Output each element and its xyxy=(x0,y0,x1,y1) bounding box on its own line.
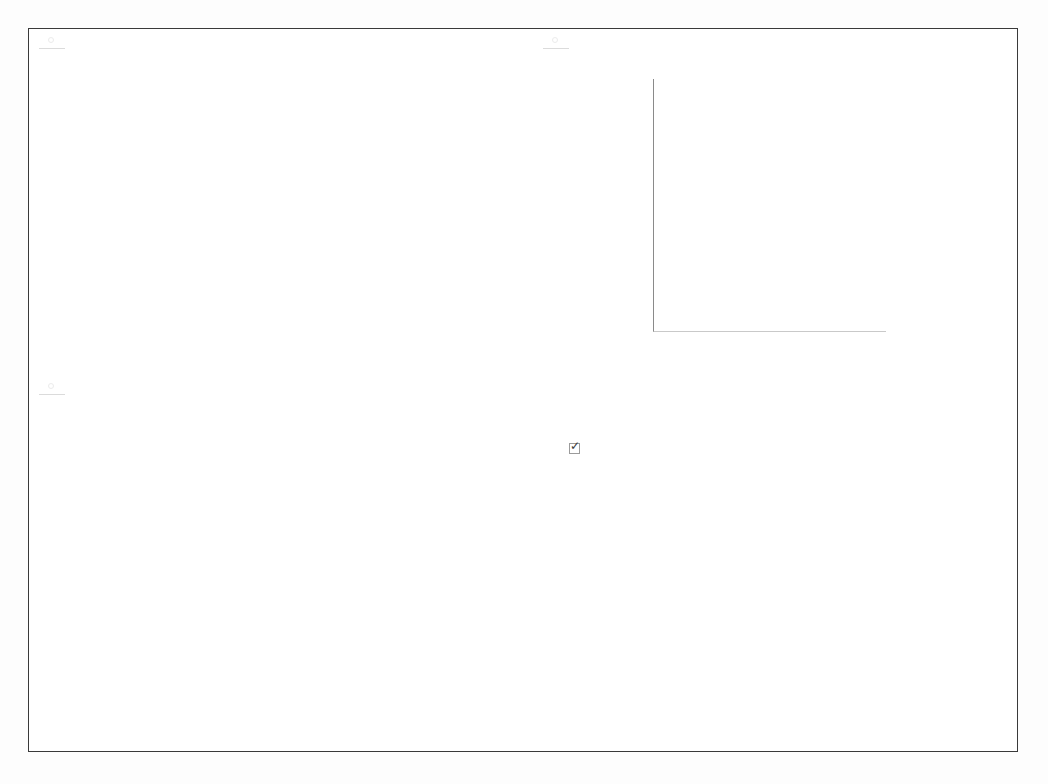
filter-select-all[interactable] xyxy=(569,443,586,455)
chart1-plot-area xyxy=(135,51,348,346)
report-page xyxy=(0,0,1048,784)
checkbox-icon[interactable] xyxy=(569,443,580,454)
report-frame xyxy=(28,28,1018,752)
widget-handle-icon[interactable] xyxy=(543,37,569,55)
chart2-plot-area xyxy=(653,79,886,332)
chart-revenue-profit-margin[interactable] xyxy=(535,31,1017,371)
chart-quantity-by-year[interactable] xyxy=(31,31,531,371)
product-line-filter-panel[interactable] xyxy=(535,377,1017,749)
widget-handle-icon[interactable] xyxy=(39,383,65,401)
widget-handle-icon[interactable] xyxy=(39,37,65,55)
chart3-plot-area xyxy=(143,401,373,601)
chart-revenue-quantity-by-product-line[interactable] xyxy=(31,377,531,749)
